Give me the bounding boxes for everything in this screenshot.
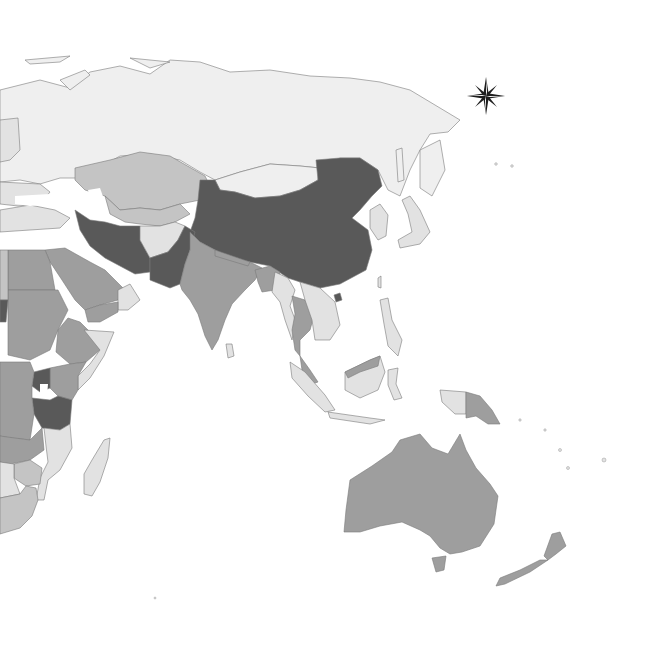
region-taiwan — [378, 276, 381, 288]
lake-victoria — [40, 384, 48, 396]
region-kamchatka — [420, 140, 445, 196]
region-west-papua — [440, 390, 466, 414]
region-madagascar — [84, 438, 110, 496]
region-turkey — [0, 205, 70, 232]
region-java — [328, 412, 385, 424]
compass-rose-icon — [466, 76, 506, 116]
region-chad-edge — [0, 300, 8, 322]
region-papua-new-guinea — [466, 392, 500, 424]
region-libya — [0, 250, 8, 300]
region-sulawesi — [388, 368, 402, 400]
region-new-zealand-south — [496, 560, 548, 586]
region-zimbabwe — [14, 460, 42, 486]
region-japan — [398, 196, 430, 248]
region-sumatra — [290, 362, 335, 412]
region-congo — [0, 362, 34, 440]
region-sri-lanka — [226, 344, 234, 358]
region-hainan — [334, 293, 342, 302]
region-tasmania — [432, 556, 446, 572]
region-arctic-islands — [25, 56, 70, 64]
region-new-zealand-north — [544, 532, 566, 560]
region-korea — [370, 204, 388, 240]
black-sea — [15, 194, 55, 206]
region-tanzania — [32, 396, 72, 430]
region-australia — [344, 434, 498, 554]
choropleth-map — [0, 0, 665, 660]
region-philippines — [380, 298, 402, 356]
